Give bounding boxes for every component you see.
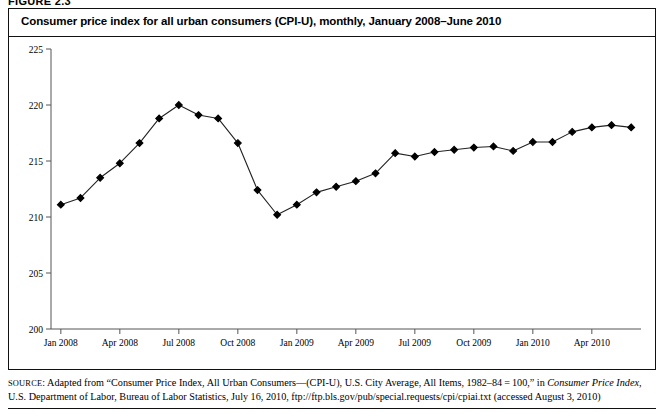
- x-axis-tick-label: Jan 2010: [516, 338, 550, 348]
- y-axis-tick-label: 205: [29, 269, 44, 279]
- x-axis-tick-label: Oct 2008: [220, 338, 255, 348]
- figure-title: Consumer price index for all urban consu…: [21, 15, 501, 27]
- data-point-marker: [529, 139, 536, 146]
- source-note-line2: U.S. Department of Labor, Bureau of Labo…: [8, 391, 601, 402]
- data-point-marker: [628, 124, 635, 131]
- data-point-marker: [411, 153, 418, 160]
- data-point-marker: [195, 112, 202, 119]
- data-point-marker: [293, 201, 300, 208]
- x-axis-tick-label: Jul 2009: [399, 338, 432, 348]
- x-axis-tick-label: Jan 2009: [280, 338, 314, 348]
- figure-page: FIGURE 2.3 Consumer price index for all …: [0, 0, 664, 412]
- data-point-marker: [313, 189, 320, 196]
- data-point-marker: [470, 144, 477, 151]
- x-axis-tick-label: Oct 2009: [456, 338, 491, 348]
- data-point-marker: [57, 201, 64, 208]
- x-axis-tick-label: Apr 2010: [574, 338, 610, 348]
- data-point-marker: [490, 143, 497, 150]
- data-point-marker: [451, 146, 458, 153]
- y-axis-tick-label: 210: [29, 213, 44, 223]
- cpi-line-chart: 200205210215220225Jan 2008Apr 2008Jul 20…: [9, 37, 655, 369]
- x-axis-tick-label: Jul 2008: [163, 338, 196, 348]
- source-note: SOURCE: Adapted from “Consumer Price Ind…: [8, 376, 656, 404]
- data-point-marker: [549, 139, 556, 146]
- x-axis-tick-label: Apr 2009: [338, 338, 374, 348]
- figure-number-label: FIGURE 2.3: [8, 0, 71, 6]
- data-point-marker: [175, 102, 182, 109]
- data-point-marker: [608, 122, 615, 129]
- source-note-prefix: SOURCE: [8, 379, 42, 388]
- y-axis-tick-label: 215: [29, 157, 44, 167]
- data-point-marker: [431, 149, 438, 156]
- x-axis-tick-label: Jan 2008: [44, 338, 78, 348]
- x-axis-tick-label: Apr 2008: [102, 338, 138, 348]
- data-point-marker: [588, 124, 595, 131]
- source-note-publication: Consumer Price Index,: [547, 377, 641, 388]
- chart-plot-area: 200205210215220225Jan 2008Apr 2008Jul 20…: [9, 37, 655, 369]
- data-point-marker: [569, 128, 576, 135]
- y-axis-tick-label: 225: [29, 45, 44, 55]
- figure-title-bar: Consumer price index for all urban consu…: [9, 9, 655, 37]
- data-point-marker: [352, 178, 359, 185]
- bottom-divider: [8, 408, 656, 409]
- figure-frame: Consumer price index for all urban consu…: [8, 8, 656, 370]
- source-note-line1-a: : Adapted from “Consumer Price Index, Al…: [42, 377, 547, 388]
- data-point-marker: [333, 183, 340, 190]
- data-point-marker: [510, 148, 517, 155]
- series-line-cpi-u: [61, 105, 631, 215]
- y-axis-tick-label: 200: [29, 325, 44, 335]
- y-axis-tick-label: 220: [29, 101, 44, 111]
